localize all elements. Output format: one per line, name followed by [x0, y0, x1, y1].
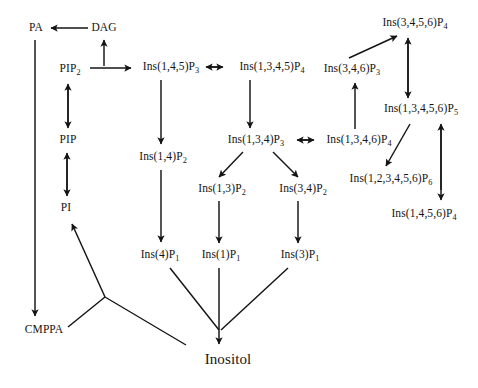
node-ins14p2: Ins(1,4)P2 — [139, 151, 186, 165]
node-ins3p1: Ins(3)P1 — [281, 249, 320, 263]
node-ins1345p4: Ins(1,3,4,5)P4 — [239, 61, 304, 75]
node-ins1456p4: Ins(1,4,5,6)P4 — [391, 208, 456, 222]
node-inositol: Inositol — [205, 352, 252, 367]
node-ins13p2: Ins(1,3)P2 — [198, 183, 245, 197]
node-subscript: 2 — [242, 188, 246, 197]
node-ins13456p5: Ins(1,3,4,5,6)P5 — [384, 103, 458, 117]
edge-ins3p1-to-inositol — [221, 268, 288, 330]
node-subscript: 2 — [323, 188, 327, 197]
edge-ins346p3-to-ins3456p4 — [349, 36, 397, 58]
node-subscript: 2 — [76, 68, 80, 77]
node-ins3456p4: Ins(3,4,5,6)P4 — [382, 17, 447, 31]
node-ins145p3: Ins(1,4,5)P3 — [143, 61, 199, 75]
node-cmppa: CMPPA — [25, 324, 63, 336]
node-pip: PIP — [60, 134, 77, 146]
node-subscript: 1 — [236, 254, 240, 263]
node-ins346p3: Ins(3,4,6)P3 — [324, 63, 380, 77]
edge-ins134p3-to-ins34p2 — [273, 152, 298, 177]
node-subscript: 1 — [175, 254, 179, 263]
node-pa: PA — [29, 22, 43, 34]
node-ins34p2: Ins(3,4)P2 — [279, 183, 326, 197]
node-ins1346p4: Ins(1,3,4,6)P4 — [326, 134, 391, 148]
pathway-diagram: PA DAG PIP2 PIP PI CMPPA Ins(1,4,5)P3 In… — [0, 0, 478, 388]
node-ins134p3: Ins(1,3,4)P3 — [228, 134, 284, 148]
edge-ins4p1-to-inositol — [170, 268, 219, 330]
node-subscript: 4 — [300, 66, 304, 75]
node-subscript: 6 — [428, 178, 432, 187]
edge-ins134p3-to-ins13p2 — [219, 152, 243, 177]
node-ins123456p6: Ins(1,2,3,4,5,6)P6 — [350, 173, 433, 187]
node-subscript: 5 — [454, 108, 458, 117]
node-pip2: PIP2 — [59, 63, 80, 77]
edge-junction-to-cmppa — [68, 297, 105, 327]
node-subscript: 3 — [376, 68, 380, 77]
node-subscript: 4 — [387, 139, 391, 148]
node-subscript: 2 — [183, 156, 187, 165]
node-dag: DAG — [91, 22, 116, 34]
node-subscript: 4 — [452, 213, 456, 222]
edge-inositol-to-junction — [105, 297, 186, 345]
node-subscript: 1 — [315, 254, 319, 263]
edge-junction-to-pi — [72, 224, 105, 297]
node-subscript: 4 — [443, 22, 447, 31]
node-ins1p1: Ins(1)P1 — [202, 249, 241, 263]
node-subscript: 3 — [195, 66, 199, 75]
node-ins4p1: Ins(4)P1 — [141, 249, 180, 263]
node-subscript: 3 — [280, 139, 284, 148]
node-pi: PI — [61, 202, 71, 214]
